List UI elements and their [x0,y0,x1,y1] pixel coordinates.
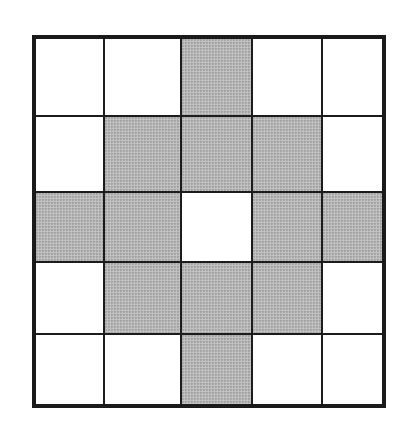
grid-cell-shaded [253,193,323,263]
grid-cell-shaded [253,117,323,193]
grid-cell-shaded [182,117,253,193]
grid-cell-empty [105,39,182,117]
grid-cell-empty [323,117,382,193]
grid-cell-shaded [182,39,253,117]
grid-cell-empty [253,39,323,117]
grid-cell-shaded [182,263,253,335]
grid-cell-empty [182,193,253,263]
grid-cell-empty [323,39,382,117]
diagram-canvas [0,0,399,432]
grid-cell-shaded [105,117,182,193]
grid-cell-shaded [36,193,105,263]
grid-cell-shaded [182,335,253,404]
grid-cell-empty [36,117,105,193]
grid-cell-shaded [105,263,182,335]
grid-cell-shaded [105,193,182,263]
grid-cell-shaded [323,193,382,263]
grid-cell-empty [323,335,382,404]
grid-cell-empty [36,263,105,335]
grid-cell-empty [253,335,323,404]
five-by-five-grid [32,35,386,408]
grid-cell-empty [105,335,182,404]
grid-cell-shaded [253,263,323,335]
grid-cell-empty [323,263,382,335]
grid-cell-empty [36,335,105,404]
grid-cell-empty [36,39,105,117]
